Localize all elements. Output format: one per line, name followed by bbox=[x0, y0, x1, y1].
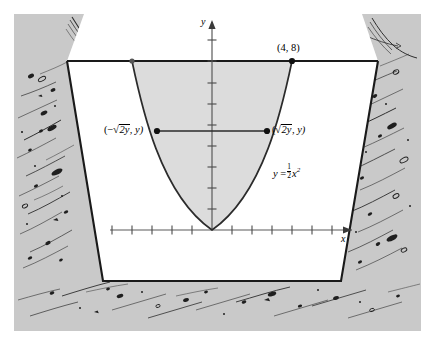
earth-ground-illustration bbox=[0, 0, 435, 345]
point-label-left-chord: (−2y, y) bbox=[104, 124, 143, 136]
equation-exponent: 2 bbox=[297, 166, 301, 174]
point-label-left-tail: , y) bbox=[130, 124, 143, 135]
x-axis-label: x bbox=[341, 234, 345, 244]
point-label-4-8: (4, 8) bbox=[277, 43, 300, 54]
equation-equals: = bbox=[280, 168, 286, 179]
radicand-right: 2y bbox=[282, 124, 292, 135]
equation-lhs: y bbox=[273, 168, 278, 179]
fraction-denominator: 2 bbox=[287, 172, 292, 180]
point-label-right-tail: , y) bbox=[292, 124, 305, 135]
equation-label: y =12x2 bbox=[273, 163, 300, 179]
sqrt-symbol-left: 2y bbox=[113, 124, 129, 136]
y-axis-arrowhead bbox=[208, 20, 215, 29]
radicand-left: 2y bbox=[119, 124, 129, 135]
one-half-fraction: 12 bbox=[287, 163, 292, 179]
point-label-right-chord: (2y, y) bbox=[272, 124, 305, 136]
sqrt-symbol-right: 2y bbox=[276, 124, 292, 136]
y-axis-label: y bbox=[201, 17, 205, 27]
point-marker-chord-left bbox=[154, 128, 160, 134]
figure-canvas: y x (4, 8) (−2y, y) (2y, y) y =12x2 bbox=[0, 0, 435, 345]
point-marker-top-right bbox=[289, 58, 295, 64]
point-marker-top-left bbox=[129, 58, 134, 63]
point-marker-chord-right bbox=[264, 128, 270, 134]
